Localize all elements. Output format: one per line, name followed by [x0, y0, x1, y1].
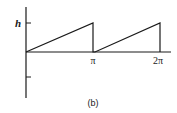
sawtooth-wave [26, 23, 160, 52]
x-tick-label-2pi: 2π [153, 55, 163, 66]
y-tick-label-h: h [15, 17, 21, 29]
sawtooth-diagram: h π 2π (b) [0, 0, 177, 113]
x-tick-label-pi: π [90, 55, 95, 66]
figure-caption: (b) [88, 98, 99, 108]
